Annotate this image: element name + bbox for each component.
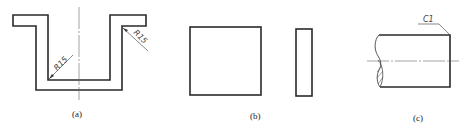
caption-b: (b) (250, 111, 261, 121)
caption-c: (c) (413, 113, 423, 123)
caption-a: (a) (72, 109, 82, 119)
square-view (190, 27, 261, 95)
c1-label: C1 (423, 15, 434, 24)
technical-drawing: R15 R15 (a) (b) C1 (c) (0, 0, 465, 132)
panel-c: C1 (c) (367, 15, 459, 123)
panel-a: R15 R15 (a) (13, 7, 149, 119)
hatch-1 (377, 66, 382, 72)
panel-b: (b) (190, 27, 312, 121)
r15-right-arrowhead (123, 28, 128, 32)
r15-right-label: R15 (132, 28, 150, 46)
c1-leader (439, 24, 450, 35)
u-channel-outline (13, 15, 146, 90)
thin-rect-view (296, 29, 312, 96)
r15-left-label: R15 (52, 55, 70, 73)
